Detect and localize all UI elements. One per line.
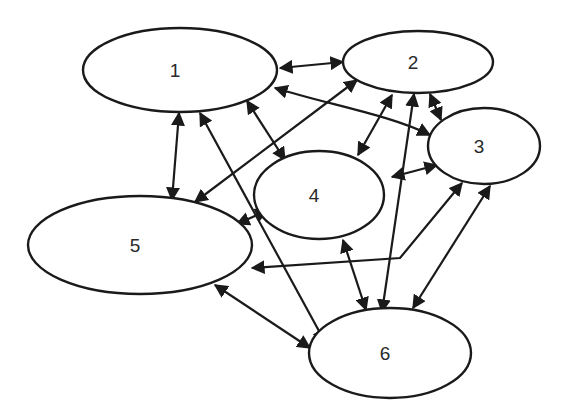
- network-diagram: 123456: [0, 0, 562, 419]
- node-label: 6: [380, 343, 391, 364]
- node-label: 3: [474, 136, 485, 157]
- node-4: 4: [254, 151, 384, 239]
- edge-5-6: [215, 285, 310, 348]
- edge-1-4: [247, 101, 285, 160]
- edge-2-4: [358, 95, 392, 155]
- node-2: 2: [343, 31, 493, 93]
- edge-1-2: [280, 62, 343, 68]
- node-3: 3: [428, 108, 540, 184]
- edge-1-5: [172, 113, 179, 200]
- edge-3-6: [413, 186, 490, 308]
- node-5: 5: [28, 196, 252, 294]
- node-label: 4: [309, 185, 320, 206]
- node-1: 1: [83, 28, 277, 112]
- node-6: 6: [309, 308, 471, 398]
- nodes-layer: 123456: [28, 28, 540, 398]
- node-label: 5: [130, 235, 141, 256]
- edge-4-6: [343, 240, 366, 310]
- edge-2-6: [382, 94, 414, 312]
- edge-3-4: [392, 165, 437, 177]
- edge-2-3: [430, 94, 441, 120]
- node-label: 1: [170, 60, 181, 81]
- node-label: 2: [408, 52, 419, 73]
- edge-1-3: [275, 88, 430, 135]
